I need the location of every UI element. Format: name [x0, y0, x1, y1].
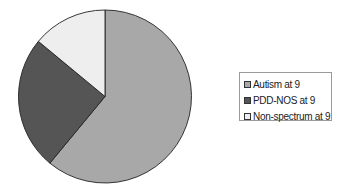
legend-label-non-spectrum: Non-spectrum at 9 [253, 111, 330, 122]
legend-label-pdd-nos: PDD-NOS at 9 [253, 95, 315, 106]
legend-item-non-spectrum: Non-spectrum at 9 [244, 108, 331, 124]
pie-chart: Autism at 9 PDD-NOS at 9 Non-spectrum at… [0, 0, 354, 193]
legend-item-autism: Autism at 9 [244, 76, 331, 92]
legend-swatch-autism [244, 81, 251, 88]
legend: Autism at 9 PDD-NOS at 9 Non-spectrum at… [239, 72, 332, 121]
legend-swatch-non-spectrum [244, 113, 251, 120]
legend-label-autism: Autism at 9 [253, 79, 300, 90]
legend-swatch-pdd-nos [244, 97, 251, 104]
legend-item-pdd-nos: PDD-NOS at 9 [244, 92, 331, 108]
